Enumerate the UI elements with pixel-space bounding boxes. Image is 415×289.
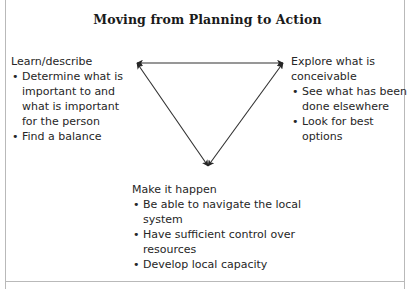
list-item-text: See what has been done elsewhere — [302, 84, 409, 114]
list-item-text: Develop local capacity — [143, 257, 317, 272]
block-learn-describe: Learn/describe • Determine what is impor… — [11, 54, 135, 144]
list-item-text: Be able to navigate the local system — [143, 197, 317, 227]
list-item-text: Have sufficient control over resources — [143, 227, 317, 257]
list-item: • See what has been done elsewhere — [291, 84, 409, 114]
block-explore-heading: Explore what is conceivable — [291, 54, 409, 84]
bullet-icon: • — [292, 84, 299, 99]
list-item: • Be able to navigate the local system — [132, 197, 317, 227]
figure-title: Moving from Planning to Action — [0, 12, 415, 27]
list-item: • Have sufficient control over resources — [132, 227, 317, 257]
block-explore-conceivable: Explore what is conceivable • See what h… — [291, 54, 409, 144]
list-item-text: Look for best options — [302, 114, 409, 144]
edge-left — [137, 63, 208, 166]
block-make-it-happen: Make it happen • Be able to navigate the… — [132, 182, 317, 272]
bullet-icon: • — [12, 129, 19, 144]
list-item-text: Determine what is important to and what … — [22, 69, 135, 129]
list-item: • Look for best options — [291, 114, 409, 144]
list-item-text: Find a balance — [22, 129, 135, 144]
edge-right — [208, 63, 283, 166]
bullet-icon: • — [12, 69, 19, 84]
block-learn-heading: Learn/describe — [11, 54, 135, 69]
list-item: • Determine what is important to and wha… — [11, 69, 135, 129]
bullet-icon: • — [133, 227, 140, 242]
block-make-list: • Be able to navigate the local system •… — [132, 197, 317, 272]
bullet-icon: • — [133, 257, 140, 272]
page-frame-right-border — [404, 0, 405, 289]
list-item: • Find a balance — [11, 129, 135, 144]
block-explore-list: • See what has been done elsewhere • Loo… — [291, 84, 409, 144]
list-item: • Develop local capacity — [132, 257, 317, 272]
block-learn-list: • Determine what is important to and wha… — [11, 69, 135, 144]
figure-container: Moving from Planning to Action Learn/des… — [0, 0, 415, 289]
block-make-heading: Make it happen — [132, 182, 317, 197]
page-frame-left-border — [5, 0, 6, 289]
page-frame-bottom-border — [5, 281, 405, 282]
bullet-icon: • — [292, 114, 299, 129]
bullet-icon: • — [133, 197, 140, 212]
